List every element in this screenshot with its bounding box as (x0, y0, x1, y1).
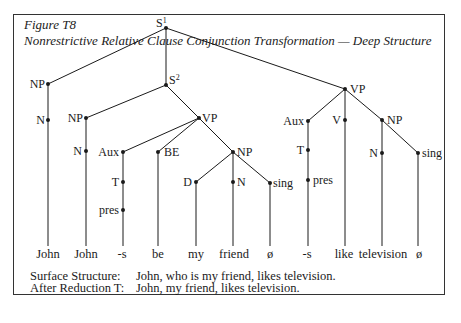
leaf-word: ø (416, 247, 422, 261)
node-np-relative: NP (68, 111, 84, 125)
tree-leaves: John John -s be my friend ø -s like tele… (36, 247, 422, 261)
node-n-object: N (369, 146, 378, 160)
node-np-predicate: NP (237, 145, 253, 159)
leaf-word: -s (302, 247, 311, 261)
node-v-main: V (332, 113, 341, 127)
leaf-word: John (36, 247, 60, 261)
leaf-word: ø (267, 247, 273, 261)
leaf-word: John (74, 247, 98, 261)
node-vp-main: VP (350, 82, 366, 96)
node-t-relative: T (112, 175, 120, 189)
tree-node-labels: S1 S2 NP N NP N VP Aux T pres BE NP D N … (30, 16, 442, 217)
note-key: After Reduction T: (30, 281, 136, 296)
node-sing-predicate: sing (273, 176, 293, 190)
node-n-predicate: N (237, 175, 246, 189)
node-n-subject: N (36, 113, 45, 127)
leaf-word: -s (117, 247, 126, 261)
leaf-word: like (335, 247, 354, 261)
leaf-word: be (152, 247, 164, 261)
node-d-predicate: D (183, 175, 192, 189)
node-pres-main: pres (313, 173, 333, 187)
note-value: John, my friend, likes television. (136, 281, 300, 295)
after-reduction-note: After Reduction T:John, my friend, likes… (30, 281, 300, 296)
node-pres-relative: pres (99, 203, 119, 217)
leaf-word: friend (219, 247, 250, 261)
node-be: BE (164, 145, 179, 159)
leaf-word: my (188, 247, 205, 261)
node-sing-object: sing (422, 146, 442, 160)
node-aux-relative: Aux (98, 145, 119, 159)
node-t-main: T (297, 143, 305, 157)
node-s2: S2 (169, 73, 180, 87)
node-n-relative: N (73, 144, 82, 158)
node-vp-relative: VP (202, 111, 218, 125)
node-np-object: NP (387, 113, 403, 127)
node-aux-main: Aux (283, 114, 304, 128)
node-np-subject: NP (30, 77, 46, 91)
leaf-word: television (359, 247, 408, 261)
